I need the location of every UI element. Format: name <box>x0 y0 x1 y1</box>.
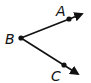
point-a <box>66 16 71 21</box>
label-c: C <box>51 68 61 83</box>
ray-ba <box>21 14 82 38</box>
ray-bc <box>21 38 78 74</box>
label-a: A <box>55 3 66 19</box>
point-c <box>61 62 66 67</box>
angle-diagram: A B C <box>0 0 91 83</box>
label-b: B <box>5 31 15 47</box>
point-b <box>18 35 23 40</box>
